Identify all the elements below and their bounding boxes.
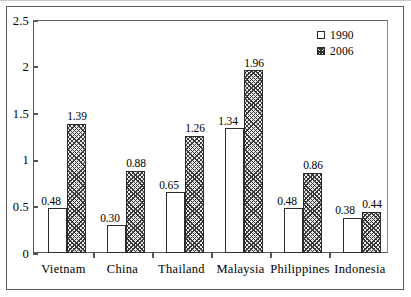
bar-china-1990[interactable] <box>107 225 126 253</box>
x-category-label-china: China <box>93 262 152 276</box>
y-tick-label-0_5: 0.5 <box>13 201 29 213</box>
bar-thailand-1990[interactable] <box>166 192 185 253</box>
y-tick-label-0: 0 <box>23 248 29 260</box>
x-tick-mark-5 <box>329 253 331 258</box>
bar-philippines-2006[interactable] <box>303 173 322 253</box>
legend-label-1990: 1990 <box>330 30 354 41</box>
bar-indonesia-2006[interactable] <box>362 212 381 253</box>
x-category-label-vietnam: Vietnam <box>34 262 93 276</box>
x-tick-mark-2 <box>152 253 154 258</box>
bar-group-vietnam: 0.48 1.39 <box>34 20 93 253</box>
x-category-label-thailand: Thailand <box>152 262 211 276</box>
bar-label-philippines-1990: 0.48 <box>272 196 302 207</box>
bar-label-philippines-2006: 0.86 <box>298 160 328 171</box>
bar-philippines-1990[interactable] <box>284 208 303 253</box>
bar-label-thailand-2006: 1.26 <box>180 123 210 134</box>
legend-swatch-1990-icon <box>317 31 325 39</box>
legend-item-2006[interactable]: 2006 <box>317 44 379 58</box>
bar-indonesia-1990[interactable] <box>343 218 362 253</box>
bar-label-thailand-1990: 0.65 <box>154 180 184 191</box>
y-tick-label-2_5: 2.5 <box>13 15 29 27</box>
y-axis-tick-labels: 0 0.5 1 1.5 2 2.5 <box>0 0 29 297</box>
x-category-label-philippines: Philippines <box>268 262 332 276</box>
y-tick-label-1: 1 <box>23 154 29 166</box>
bar-group-malaysia: 1.34 1.96 <box>211 20 270 253</box>
bar-vietnam-2006[interactable] <box>67 124 86 254</box>
scan-artifact-line <box>0 0 411 1</box>
bar-label-malaysia-1990: 1.34 <box>213 116 243 127</box>
bar-china-2006[interactable] <box>126 171 145 253</box>
bar-chart-figure: 0 0.5 1 1.5 2 2.5 0.48 1.39 0.30 0.88 <box>0 0 411 297</box>
bar-label-china-2006: 0.88 <box>121 158 151 169</box>
y-tick-label-1_5: 1.5 <box>13 108 29 120</box>
bar-label-malaysia-2006: 1.96 <box>239 58 269 69</box>
chart-legend: 1990 2006 <box>317 28 379 60</box>
bar-malaysia-2006[interactable] <box>244 70 263 253</box>
y-tick-mark-0 <box>33 253 38 255</box>
bar-thailand-2006[interactable] <box>185 136 204 253</box>
legend-item-1990[interactable]: 1990 <box>317 28 379 42</box>
bar-group-thailand: 0.65 1.26 <box>152 20 211 253</box>
bar-label-indonesia-2006: 0.44 <box>357 199 387 210</box>
bar-label-china-1990: 0.30 <box>95 213 125 224</box>
x-category-label-malaysia: Malaysia <box>211 262 270 276</box>
bar-group-china: 0.30 0.88 <box>93 20 152 253</box>
bar-label-indonesia-1990: 0.38 <box>330 205 360 216</box>
bar-malaysia-1990[interactable] <box>225 128 244 253</box>
legend-swatch-2006-icon <box>317 47 325 55</box>
legend-label-2006: 2006 <box>330 46 354 57</box>
bar-label-vietnam-2006: 1.39 <box>62 111 92 122</box>
x-tick-mark-3 <box>211 253 213 258</box>
x-tick-mark-1 <box>93 253 95 258</box>
bar-vietnam-1990[interactable] <box>48 208 67 253</box>
x-tick-mark-4 <box>270 253 272 258</box>
bar-label-vietnam-1990: 0.48 <box>36 196 66 207</box>
x-category-label-indonesia: Indonesia <box>329 262 391 276</box>
y-tick-label-2: 2 <box>23 61 29 73</box>
